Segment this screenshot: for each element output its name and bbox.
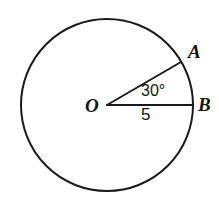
point-a-label: A (188, 42, 201, 61)
geometry-figure: O A B 30° 5 (0, 0, 219, 202)
center-point-label: O (85, 96, 99, 115)
central-angle-label: 30° (141, 83, 165, 99)
point-b-label: B (198, 95, 211, 114)
radius-length-label: 5 (141, 106, 150, 123)
circle-diagram-svg (0, 0, 219, 202)
